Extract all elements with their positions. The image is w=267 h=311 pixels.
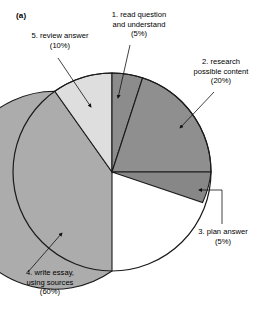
pie-label-review-answer: 5. review answer (10%): [12, 31, 108, 50]
pie-label-research-content: 2. research possible content (20%): [178, 57, 264, 86]
pie-slice-plan-answer[interactable]: [112, 172, 211, 203]
pie-label-write-essay: 4. write essay, using sources (60%): [4, 268, 96, 297]
pie-label-plan-answer: 3. plan answer (5%): [181, 227, 265, 246]
pie-chart-figure: (a) 1. read question and under: [0, 0, 267, 311]
